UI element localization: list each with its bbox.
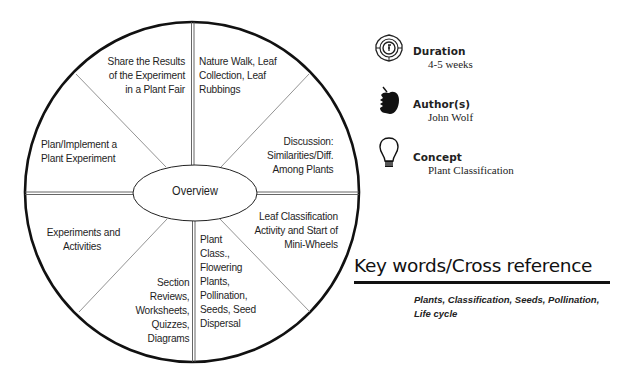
curriculum-wheel bbox=[0, 0, 629, 387]
concept-block: Concept Plant Classification bbox=[413, 151, 514, 176]
segment-plan-implement: Plan/Implement a Plant Experiment bbox=[41, 137, 115, 165]
lightbulb-icon bbox=[380, 138, 398, 167]
author-block: Author(s) John Wolf bbox=[413, 98, 473, 123]
duration-value: 4-5 weeks bbox=[428, 58, 473, 70]
keywords-heading: Key words/Cross reference bbox=[354, 255, 592, 276]
segment-experiments-activities: Experiments and Activities bbox=[47, 225, 117, 253]
keywords-text: Plants, Classification, Seeds, Pollinati… bbox=[414, 293, 614, 321]
concept-value: Plant Classification bbox=[428, 164, 514, 176]
keywords-rule bbox=[354, 281, 610, 284]
duration-title: Duration bbox=[413, 45, 473, 57]
author-value: John Wolf bbox=[428, 111, 473, 123]
segment-share-results: Share the Results of the Experiment in a… bbox=[108, 54, 185, 96]
segment-leaf-classification: Leaf Classification Activity and Start o… bbox=[255, 209, 338, 251]
overview-label: Overview bbox=[164, 184, 226, 198]
duration-block: Duration 4-5 weeks bbox=[413, 45, 473, 70]
author-title: Author(s) bbox=[413, 98, 473, 110]
concept-title: Concept bbox=[413, 151, 514, 163]
segment-plant-class: Plant Class., Flowering Plants, Pollinat… bbox=[200, 232, 256, 330]
segment-nature-walk: Nature Walk, Leaf Collection, Leaf Rubbi… bbox=[199, 54, 277, 96]
segment-discussion: Discussion: Similarities/Diff. Among Pla… bbox=[267, 134, 333, 176]
segment-section-reviews: Section Reviews, Worksheets, Quizzes, Di… bbox=[135, 275, 189, 345]
apple-icon bbox=[380, 87, 399, 114]
clock-badge-icon bbox=[376, 35, 402, 61]
